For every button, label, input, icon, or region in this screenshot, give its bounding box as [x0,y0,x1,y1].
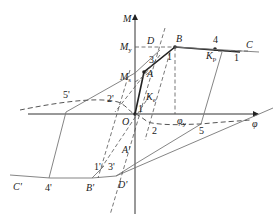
point-d-label: D [146,35,155,46]
point-a-label: A [146,68,154,79]
unload-4-5 [201,52,222,124]
path-label-2: 2 [152,125,157,136]
my-label: My [119,41,132,54]
point-c-label: C [246,39,253,50]
origin-label: O [122,116,129,127]
point-d-prime-label: D' [117,179,128,190]
axis-label-phi: φ [252,118,258,129]
axis-label-m: M [122,13,132,24]
reload-5-d-prime [135,124,201,164]
ke-label: Ke [145,91,156,104]
point-a-prime-label: A' [121,144,131,155]
path-label-1-prime: 1' [94,161,101,172]
point-c-prime-label: C' [13,181,23,192]
kp-label: Kp [205,50,217,63]
hysteresis-diagram: M φ O My Ms φy Ke Kp A B C D A' B' C' D'… [0,0,273,220]
path-label-5-prime: 5' [63,89,70,100]
unload-4prime-5prime [49,112,66,178]
path-label-3-prime: 3' [108,161,115,172]
path-label-2-prime: 2' [107,93,114,104]
path-label-3: 3 [149,54,154,65]
d-prime-reload-line [116,108,273,176]
path-label-4-prime: 4' [45,182,52,193]
point-b-label: B [176,33,182,44]
path-label-4: 4 [213,34,218,45]
negative-backbone [10,175,116,178]
slope-unit-label-c: 1 [234,52,239,63]
path-label-5: 5 [199,125,204,136]
phiy-label: φy [177,115,187,128]
path-label-1: 1 [138,103,143,114]
reload-to-d-prime [116,164,135,176]
point-b-prime-label: B' [86,182,95,193]
slope-unit-label-b: 1 [167,51,172,62]
